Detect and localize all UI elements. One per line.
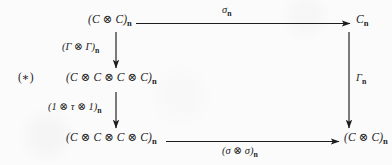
node-bottom-right-base: (C ⊗ C)	[344, 131, 383, 143]
edge-label-bottom-subscript: n	[253, 150, 257, 159]
edge-label-left-upper: (Γ ⊗ Γ)n	[62, 42, 99, 55]
node-bottom-left-base: (C ⊗ C ⊗ C ⊗ C)	[66, 131, 152, 143]
equation-tag: (∗)	[18, 72, 33, 84]
edge-label-left-upper-base: (Γ ⊗ Γ)	[62, 41, 95, 52]
node-bottom-right-subscript: n	[383, 136, 388, 146]
edge-label-top: σn	[222, 5, 232, 18]
node-top-left-base: (C ⊗ C)	[88, 13, 127, 25]
edge-label-left-lower-base: (1 ⊗ τ ⊗ 1)	[48, 101, 97, 112]
edge-label-bottom-base: (σ ⊗ σ)	[222, 145, 253, 156]
node-bottom-left: (C ⊗ C ⊗ C ⊗ C)n	[66, 132, 157, 146]
node-top-right: Cn	[356, 14, 369, 28]
node-middle-left: (C ⊗ C ⊗ C ⊗ C)n	[66, 72, 157, 86]
node-bottom-right: (C ⊗ C)n	[344, 132, 388, 146]
edge-label-left-lower-subscript: n	[97, 106, 101, 115]
node-middle-left-base: (C ⊗ C ⊗ C ⊗ C)	[66, 71, 152, 83]
node-middle-left-subscript: n	[152, 76, 157, 86]
equation-tag-text: (∗)	[18, 71, 33, 83]
edge-label-left-upper-subscript: n	[95, 46, 99, 55]
diagram-arrows	[0, 0, 392, 165]
edge-label-right-subscript: n	[362, 77, 366, 86]
node-bottom-left-subscript: n	[152, 136, 157, 146]
node-top-right-subscript: n	[364, 18, 369, 28]
node-top-left-subscript: n	[127, 18, 132, 28]
node-top-right-base: C	[356, 13, 364, 25]
edge-label-top-subscript: n	[227, 9, 231, 18]
edge-label-bottom: (σ ⊗ σ)n	[222, 146, 258, 159]
edge-label-left-lower: (1 ⊗ τ ⊗ 1)n	[48, 102, 102, 115]
commutative-diagram: (∗) (C ⊗ C)n Cn (C ⊗ C ⊗ C ⊗ C)n (C ⊗ C …	[0, 0, 392, 165]
node-top-left: (C ⊗ C)n	[88, 14, 132, 28]
edge-label-right: Γn	[356, 73, 366, 86]
